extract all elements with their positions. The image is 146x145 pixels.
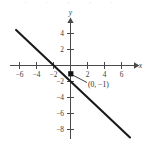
x-tick-label-2: 2	[86, 70, 90, 79]
y-tick-label-neg8: −8	[56, 125, 64, 134]
x-tick-label-neg6: −6	[16, 70, 24, 79]
plotted-line	[16, 30, 130, 138]
y-tick-label-neg2: −2	[56, 77, 64, 86]
y-axis-arrow-icon	[67, 18, 73, 24]
y-axis-label: y	[68, 8, 73, 17]
y-tick-label-neg4: −4	[56, 93, 64, 102]
coordinate-plane: −6 −4 −2 2 4 6 4 2 −2 −4 −6 −8 x y (0, −…	[0, 0, 146, 145]
graph-figure: . . , , . −6 −4 −2 2 4 6 4 2 −2 −4 −	[0, 0, 146, 145]
x-tick-label-4: 4	[103, 70, 107, 79]
point-annotation-label: (0, −1)	[88, 80, 109, 89]
y-tick-label-2: 2	[60, 45, 64, 54]
x-axis-label: x	[138, 61, 143, 70]
x-tick-label-6: 6	[120, 70, 124, 79]
y-tick-label-neg6: −6	[56, 109, 64, 118]
point-marker-dot	[68, 71, 73, 76]
y-tick-label-4: 4	[60, 29, 64, 38]
x-tick-label-neg4: −4	[33, 70, 41, 79]
